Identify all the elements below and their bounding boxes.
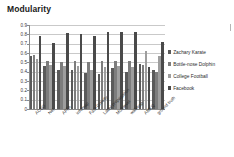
chart-title: Modularity bbox=[7, 4, 51, 14]
legend-swatch-icon bbox=[168, 86, 171, 89]
bar-group bbox=[71, 25, 83, 109]
bar-group bbox=[30, 25, 42, 109]
page-edge-mark bbox=[230, 24, 231, 31]
bar bbox=[134, 32, 137, 109]
bar-group bbox=[43, 25, 55, 109]
modularity-chart: Modularity 0.90.80.70.60.50.40.30.20.10 … bbox=[0, 0, 234, 157]
x-axis-tick-labels: ACSONetAFFAinfomapFast-GreedyLabel propa… bbox=[29, 110, 165, 157]
bar-group bbox=[152, 25, 164, 109]
y-axis-tick-labels: 0.90.80.70.60.50.40.30.20.10 bbox=[8, 25, 27, 110]
legend-swatch-icon bbox=[168, 74, 171, 77]
bars-layer bbox=[29, 25, 165, 109]
legend-swatch-icon bbox=[168, 62, 171, 65]
bar bbox=[80, 34, 83, 109]
plot-area bbox=[29, 25, 165, 110]
legend-label: Zachary Karate bbox=[173, 50, 206, 55]
legend-label: College Football bbox=[173, 74, 208, 79]
legend-item[interactable]: Zachary Karate bbox=[168, 47, 232, 57]
bar-group bbox=[139, 25, 151, 109]
legend-item[interactable]: Facebook bbox=[168, 83, 232, 93]
bar bbox=[161, 42, 164, 109]
legend-swatch-icon bbox=[168, 50, 171, 53]
bar bbox=[66, 33, 69, 109]
bar-group bbox=[125, 25, 137, 109]
bar bbox=[148, 67, 151, 109]
chart-legend: Zachary KarateBottle-nose DolphinCollege… bbox=[168, 47, 232, 95]
bar bbox=[93, 36, 96, 109]
bar bbox=[52, 43, 55, 109]
bar bbox=[39, 36, 42, 109]
bar-group bbox=[57, 25, 69, 109]
bar-group bbox=[84, 25, 96, 109]
legend-label: Facebook bbox=[173, 86, 194, 91]
legend-item[interactable]: College Football bbox=[168, 71, 232, 81]
legend-item[interactable]: Bottle-nose Dolphin bbox=[168, 59, 232, 69]
legend-label: Bottle-nose Dolphin bbox=[173, 62, 215, 67]
